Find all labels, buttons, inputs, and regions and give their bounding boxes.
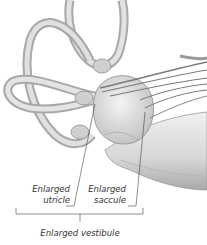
ampulla-superior: [93, 59, 111, 73]
ampulla-lateral: [75, 91, 93, 105]
utricle-label: Enlarged utricle: [20, 184, 70, 206]
utricle-label-line2: utricle: [20, 195, 70, 206]
vestibule: [93, 76, 153, 144]
inner-ear-diagram: Enlarged utricle Enlarged saccule Enlarg…: [0, 0, 207, 245]
saccule-label: Enlarged saccule: [80, 184, 126, 206]
saccule-label-line1: Enlarged: [80, 184, 126, 195]
utricle-label-line1: Enlarged: [20, 184, 70, 195]
vestibule-bracket: [16, 208, 143, 222]
saccule-label-line2: saccule: [80, 195, 126, 206]
inner-ear-illustration: [0, 0, 207, 245]
ampulla-posterior: [71, 125, 89, 139]
vestibule-label: Enlarged vestibule: [30, 228, 130, 239]
